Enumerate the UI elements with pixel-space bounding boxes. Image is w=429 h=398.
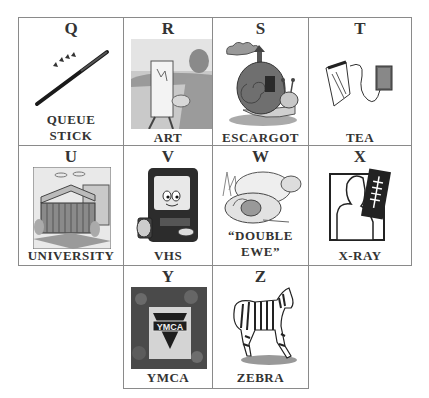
card-letter: S (213, 19, 308, 39)
card-caption: UNIVERSITY (19, 248, 123, 264)
card-letter: V (124, 147, 212, 167)
card-caption: ZEBRA (213, 370, 308, 386)
card-letter: Z (213, 267, 308, 287)
card-z: Z ZEBRA (212, 265, 309, 389)
card-letter: R (124, 19, 212, 39)
xray-icon (329, 168, 391, 242)
sheep-icon (219, 166, 305, 226)
card-u: U UNIVERSITY (18, 145, 124, 266)
ymca-sign-icon: YMCA (131, 287, 207, 369)
card-s: S ESCARGOT (212, 17, 309, 146)
card-caption: “DOUBLE EWE” (213, 228, 308, 260)
card-letter: T (309, 19, 411, 39)
card-caption: ART (124, 130, 212, 146)
queue-stick-icon (31, 48, 111, 108)
card-letter: U (19, 147, 123, 167)
snail-icon (223, 40, 303, 128)
card-caption: YMCA (124, 370, 212, 386)
card-x: X X-RAY (308, 145, 412, 266)
card-letter: Q (19, 19, 123, 39)
card-caption: QUEUE STICK (19, 112, 123, 144)
university-building-icon (33, 167, 111, 249)
card-q: Q QUEUE STICK (18, 17, 124, 146)
card-t: T TEA (308, 17, 412, 146)
svg-text:YMCA: YMCA (157, 322, 184, 332)
card-v: V VHS (123, 145, 213, 266)
card-letter: X (309, 147, 411, 167)
card-letter: Y (124, 267, 212, 287)
card-y: Y YMCA YMCA (123, 265, 213, 389)
card-caption: VHS (124, 248, 212, 264)
zebra-icon (225, 286, 301, 366)
card-caption: X-RAY (309, 248, 411, 264)
artist-painting-icon (131, 39, 213, 129)
tea-bag-icon (324, 54, 399, 114)
card-r: R ART (123, 17, 213, 146)
card-caption: ESCARGOT (213, 130, 308, 146)
card-letter: W (213, 147, 308, 167)
tv-vhs-icon (134, 166, 204, 246)
card-caption: TEA (309, 130, 411, 146)
card-w: W “DOUBLE EWE” (212, 145, 309, 266)
